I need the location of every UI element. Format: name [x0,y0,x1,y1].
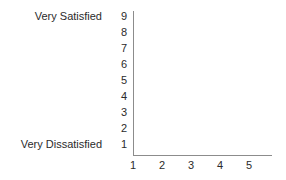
plot-area [134,11,272,155]
x-tick-5: 5 [242,160,256,171]
y-tick-1: 1 [108,139,127,150]
y-tick-8: 8 [108,27,127,38]
y-axis-tick-labels: 9 8 7 6 5 4 3 2 1 [108,0,127,180]
y-tick-7: 7 [108,43,127,54]
y-anchor-label-high: Very Satisfied [35,11,102,22]
x-axis-line [133,155,272,156]
x-tick-4: 4 [213,160,227,171]
x-tick-1: 1 [126,160,140,171]
x-tick-2: 2 [155,160,169,171]
x-tick-3: 3 [184,160,198,171]
y-tick-3: 3 [108,107,127,118]
y-tick-5: 5 [108,75,127,86]
y-axis-anchor-labels: Very Satisfied Very Dissatisfied [0,0,108,180]
y-tick-6: 6 [108,59,127,70]
y-tick-4: 4 [108,91,127,102]
y-anchor-label-low: Very Dissatisfied [21,139,102,150]
y-tick-2: 2 [108,123,127,134]
satisfaction-scale-chart: Very Satisfied Very Dissatisfied 9 8 7 6… [0,0,286,180]
y-axis-line [133,11,134,156]
y-tick-9: 9 [108,11,127,22]
